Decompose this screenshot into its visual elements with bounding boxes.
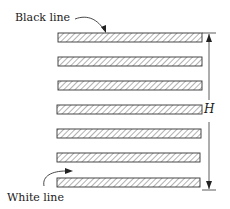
black-line-bar-1	[58, 33, 202, 42]
black-line-bar-6	[57, 153, 200, 162]
black-line-bar-7	[57, 178, 200, 187]
black-line-bar-2	[58, 57, 202, 66]
black-line-bar-4	[57, 105, 202, 114]
height-label: H	[203, 102, 215, 116]
arrow-up-icon	[206, 34, 212, 42]
arrow-down-icon	[206, 181, 212, 189]
black-lines-group	[57, 33, 202, 187]
black-line-bar-5	[57, 129, 201, 138]
black-line-leader	[75, 17, 106, 33]
leader-arrow-icon	[65, 168, 73, 174]
black-line-bar-3	[58, 81, 202, 90]
grating-figure	[0, 0, 230, 209]
white-line-label: White line	[7, 191, 64, 204]
black-line-label: Black line	[15, 11, 70, 24]
grating-diagram: Black line White line H	[0, 0, 230, 209]
